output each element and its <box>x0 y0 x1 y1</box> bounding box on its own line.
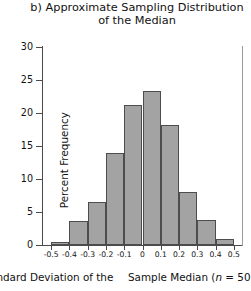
x-tick-label: 0.1 <box>155 251 167 259</box>
histogram-bar <box>106 153 124 245</box>
x-tick-label: -0.5 <box>44 251 59 259</box>
y-tick-label: 30 <box>21 42 33 52</box>
caption-right-text: Sample Median (n = 50) <box>128 271 251 284</box>
histogram-bar <box>143 91 161 245</box>
x-tick-label: -0.4 <box>62 251 77 259</box>
y-axis-title: Percent Frequency <box>59 95 69 225</box>
histogram-bar <box>216 239 234 245</box>
histogram-bar <box>124 105 142 245</box>
x-tick-label: 0.5 <box>228 251 240 259</box>
caption-right-suffix: = 50) <box>222 271 251 283</box>
histogram-bar <box>88 202 106 245</box>
y-tick-label: 20 <box>21 108 33 118</box>
caption-right-prefix: Sample Median ( <box>128 271 215 283</box>
figure-caption: tandard Deviation of the Sample Median (… <box>0 268 251 291</box>
y-tick-label: 10 <box>21 174 33 184</box>
y-tick-mark <box>36 245 42 246</box>
chart-title: b) Approximate Sampling Distribution of … <box>26 1 248 27</box>
x-tick-label: 0.2 <box>173 251 185 259</box>
x-tick-label: -0.2 <box>99 251 114 259</box>
histogram-bar <box>179 192 197 245</box>
x-tick-label: 0.4 <box>210 251 222 259</box>
x-tick-label: 0 <box>140 251 145 259</box>
y-tick-label: 15 <box>21 141 33 151</box>
plot-area: Percent Frequency <box>42 47 243 245</box>
x-tick-label: 0.3 <box>191 251 203 259</box>
y-tick-label: 5 <box>27 207 33 217</box>
histogram-bar <box>161 125 179 245</box>
x-tick-label: -0.3 <box>80 251 95 259</box>
histogram-bar <box>197 220 215 245</box>
histogram-bar <box>51 242 69 245</box>
caption-left-text: tandard Deviation of the <box>0 271 113 284</box>
y-tick-label: 25 <box>21 75 33 85</box>
y-tick-label: 0 <box>27 240 33 250</box>
histogram-bar <box>69 221 87 245</box>
x-tick-label: -0.1 <box>117 251 132 259</box>
